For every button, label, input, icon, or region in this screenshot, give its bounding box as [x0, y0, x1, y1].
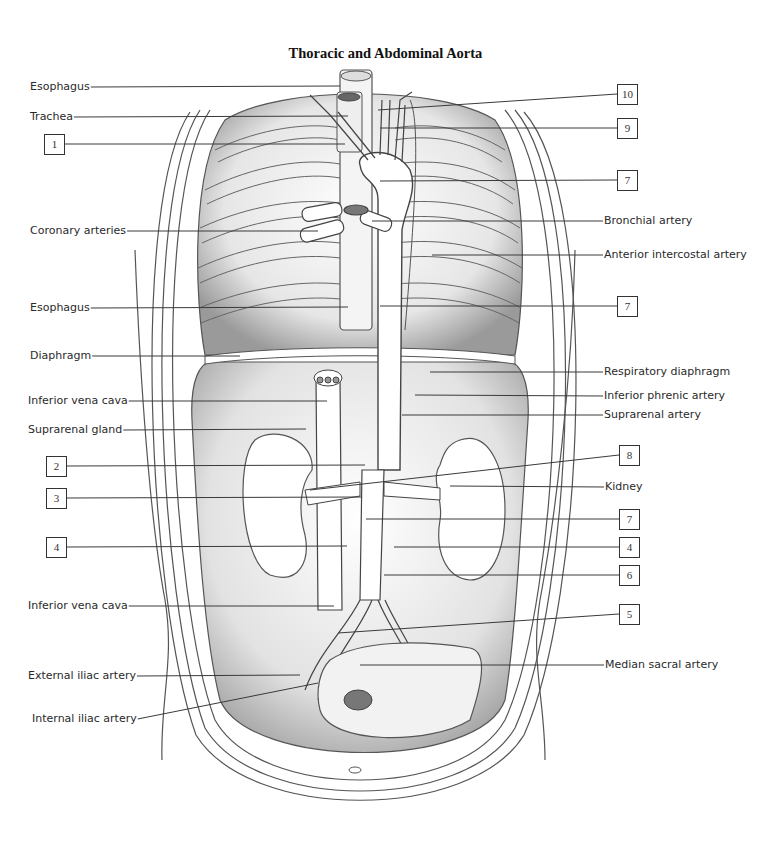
callout-box-9: 9	[617, 118, 638, 139]
abdominal-aorta-shape	[360, 470, 384, 600]
kidney-right	[436, 438, 505, 580]
umbilicus	[349, 767, 361, 773]
label-external-iliac-artery: External iliac artery	[28, 669, 136, 682]
label-kidney: Kidney	[605, 480, 643, 493]
callout-box-4-left: 4	[46, 537, 67, 558]
label-inferior-vena-cava-bottom: Inferior vena cava	[28, 599, 128, 612]
callout-box-1: 1	[44, 134, 65, 155]
callout-box-5: 5	[619, 604, 640, 625]
label-suprarenal-artery: Suprarenal artery	[604, 408, 701, 421]
callout-box-7-c: 7	[619, 509, 640, 530]
trachea-opening	[338, 93, 360, 101]
label-bronchial-artery: Bronchial artery	[604, 214, 692, 227]
callout-box-7-b: 7	[617, 296, 638, 317]
diagram-stage: Thoracic and Abdominal Aorta	[0, 0, 771, 841]
label-coronary-arteries: Coronary arteries	[30, 224, 126, 237]
label-trachea: Trachea	[30, 110, 73, 123]
esophagus-opening	[341, 71, 371, 81]
label-esophagus-mid: Esophagus	[30, 301, 90, 314]
label-internal-iliac-artery: Internal iliac artery	[32, 712, 137, 725]
pelvis-shape	[318, 643, 482, 738]
callout-box-6: 6	[619, 565, 640, 586]
pelvic-opening	[344, 690, 372, 710]
label-inferior-vena-cava-top: Inferior vena cava	[28, 394, 128, 407]
label-suprarenal-gland: Suprarenal gland	[28, 423, 122, 436]
label-median-sacral-artery: Median sacral artery	[605, 658, 718, 671]
callout-box-8: 8	[619, 445, 640, 466]
callout-box-2: 2	[46, 456, 67, 477]
leader-line	[91, 86, 340, 87]
label-diaphragm: Diaphragm	[30, 349, 91, 362]
ivc-openings	[317, 377, 339, 383]
callout-box-3: 3	[46, 488, 67, 509]
callout-box-10: 10	[617, 84, 638, 105]
callout-box-4-right: 4	[619, 537, 640, 558]
label-esophagus-top: Esophagus	[30, 80, 90, 93]
label-respiratory-diaphragm: Respiratory diaphragm	[604, 365, 730, 378]
label-anterior-intercostal-artery: Anterior intercostal artery	[604, 248, 747, 261]
callout-box-7-a: 7	[617, 170, 638, 191]
label-inferior-phrenic-artery: Inferior phrenic artery	[604, 389, 725, 402]
